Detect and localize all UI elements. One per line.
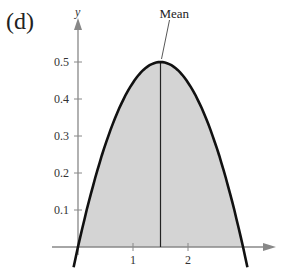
y-tick-label: 0.3 bbox=[54, 129, 69, 143]
y-tick-label: 0.1 bbox=[54, 203, 69, 217]
y-axis-label: y bbox=[74, 5, 81, 19]
plot-area: y0.10.20.30.40.512Mean bbox=[0, 0, 290, 268]
y-tick-label: 0.4 bbox=[54, 92, 69, 106]
y-axis-arrow-icon bbox=[74, 18, 82, 30]
x-axis-arrow-icon bbox=[263, 243, 276, 251]
y-tick-label: 0.2 bbox=[54, 166, 69, 180]
x-tick-label: 2 bbox=[185, 253, 191, 267]
mean-label: Mean bbox=[160, 6, 190, 21]
mean-leader-line bbox=[162, 20, 170, 59]
x-tick-label: 1 bbox=[130, 253, 136, 267]
chart-root: (d) y0.10.20.30.40.512Mean bbox=[0, 0, 290, 268]
y-tick-label: 0.5 bbox=[54, 55, 69, 69]
